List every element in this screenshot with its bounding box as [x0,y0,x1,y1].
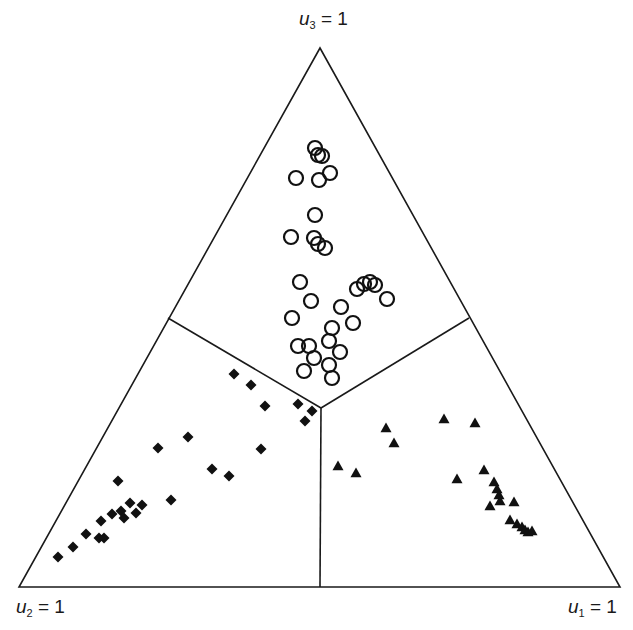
label-var: u [299,8,310,29]
circle-marker [322,334,336,348]
triangle-marker [452,474,463,484]
label-eq: = 1 [33,596,65,617]
diamond-marker [256,444,267,455]
data-markers [53,141,538,563]
diamond-marker [125,498,136,509]
circle-marker [308,208,322,222]
circle-marker [380,292,394,306]
circle-marker [325,371,339,385]
diamond-marker [307,406,318,417]
circle-marker [322,358,336,372]
diamond-marker [113,476,124,487]
triangle-marker [333,461,344,471]
diamond-marker [131,508,142,519]
diamond-marker [293,399,304,410]
diamond-marker [53,552,64,563]
triangle-frame [19,48,620,587]
triangle-marker [351,468,362,478]
label-var: u [16,596,27,617]
ternary-plot [0,0,633,630]
triangle-marker [489,477,500,487]
circle-marker [346,316,360,330]
circle-marker [333,345,347,359]
diamond-marker [81,529,92,540]
triangle-marker [509,497,520,507]
divider-right [321,318,469,408]
label-eq: = 1 [585,596,617,617]
region-dividers [168,318,469,587]
triangle-marker [470,418,481,428]
circle-marker [285,311,299,325]
triangle-outline [19,48,620,587]
triangle-marker [389,438,400,448]
diamond-marker [246,380,257,391]
vertex-label-top: u3 = 1 [299,8,348,31]
circle-marker [325,321,339,335]
diamond-marker [229,369,240,380]
triangle-marker [439,414,450,424]
diamond-marker [153,443,164,454]
diamond-marker [300,416,311,427]
divider-left [168,318,321,408]
circle-marker [334,300,348,314]
diamond-marker [68,542,79,553]
diamond-marker [137,500,148,511]
diamond-marker [260,401,271,412]
label-eq: = 1 [316,8,348,29]
circle-marker [293,275,307,289]
circle-marker [307,351,321,365]
circle-marker [312,173,326,187]
triangle-marker [485,501,496,511]
diamond-marker [207,464,218,475]
vertex-label-bottom-left: u2 = 1 [16,596,65,619]
label-var: u [568,596,579,617]
triangle-marker [381,423,392,433]
diamond-marker [166,495,177,506]
triangle-marker [505,515,516,525]
circle-marker [284,230,298,244]
triangle-marker [479,465,490,475]
divider-bottom [320,408,321,587]
diamond-marker [107,509,118,520]
diamond-marker [224,471,235,482]
circle-marker [297,364,311,378]
diamond-marker [183,432,194,443]
diamond-marker [96,516,107,527]
vertex-label-bottom-right: u1 = 1 [568,596,617,619]
circle-marker [289,171,303,185]
circle-marker [304,294,318,308]
